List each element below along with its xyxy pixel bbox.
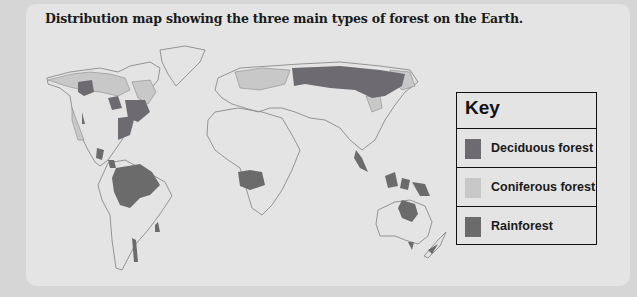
- congo-rainforest: [238, 170, 265, 190]
- rainforest-swatch: [465, 217, 481, 237]
- new-zealand-outline: [424, 232, 446, 258]
- legend-label: Coniferous forest: [491, 180, 595, 194]
- queensland-rainforest: [398, 200, 418, 222]
- legend-key: Key Deciduous forest Coniferous forest R…: [456, 92, 597, 245]
- legend-label: Deciduous forest: [491, 141, 593, 155]
- legend-title: Key: [465, 97, 500, 119]
- legend-label: Rainforest: [491, 219, 553, 233]
- legend-item-coniferous: Coniferous forest: [457, 167, 596, 207]
- legend-item-deciduous: Deciduous forest: [457, 128, 596, 168]
- deciduous-swatch: [465, 139, 481, 159]
- greenland-outline: [160, 46, 205, 86]
- legend-item-rainforest: Rainforest: [457, 206, 596, 246]
- amazon-rainforest: [112, 164, 160, 208]
- coniferous-swatch: [465, 178, 481, 198]
- africa-outline: [207, 108, 300, 215]
